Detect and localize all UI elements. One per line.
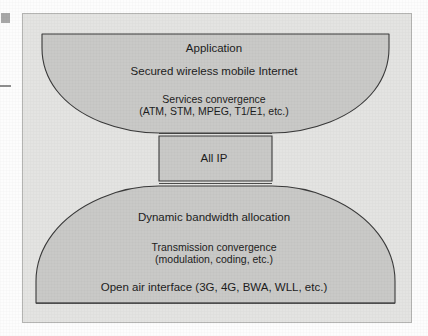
label-open-air-interface: Open air interface (3G, 4G, BWA, WLL, et…: [0, 281, 428, 295]
label-services-convergence-detail: (ATM, STM, MPEG, T1/E1, etc.): [0, 105, 428, 117]
diagram-label-layer: Application Secured wireless mobile Inte…: [0, 0, 428, 336]
label-transmission-convergence-detail: (modulation, coding, etc.): [0, 253, 428, 265]
label-secured-wireless-mobile-internet: Secured wireless mobile Internet: [0, 65, 428, 79]
label-services-convergence: Services convergence: [0, 93, 428, 105]
label-application: Application: [0, 42, 428, 56]
label-all-ip: All IP: [0, 152, 428, 166]
label-transmission-convergence: Transmission convergence: [0, 241, 428, 253]
label-dynamic-bandwidth-allocation: Dynamic bandwidth allocation: [0, 211, 428, 225]
